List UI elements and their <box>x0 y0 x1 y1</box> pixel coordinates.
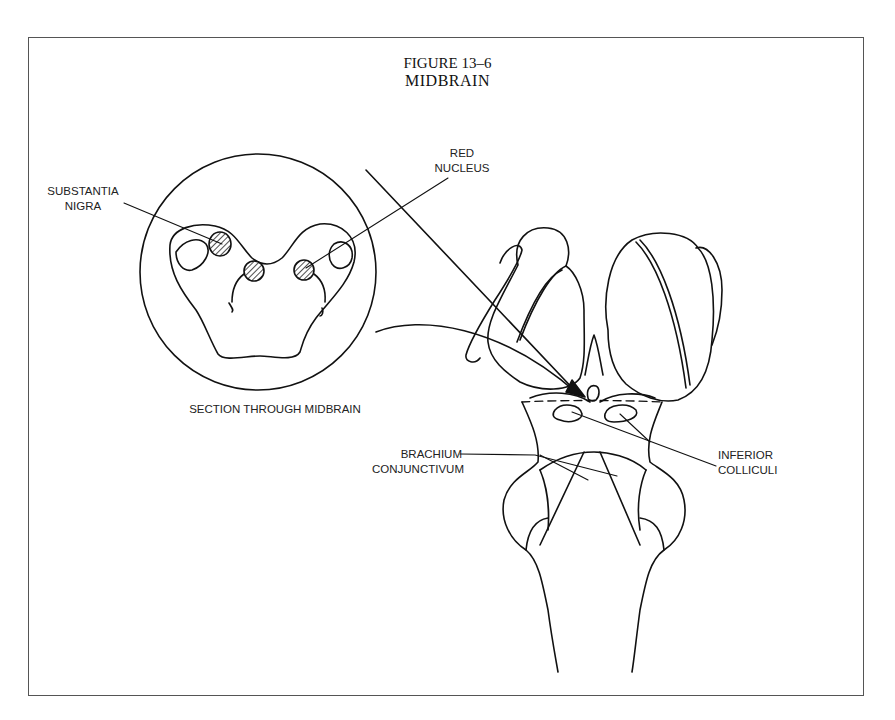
label-line: COLLICULI <box>718 463 788 478</box>
zoom-funnel-lines <box>366 170 585 397</box>
midbrain-illustration <box>0 0 895 720</box>
label-substantia-nigra: SUBSTANTIA NIGRA <box>40 184 126 214</box>
label-line: NUCLEUS <box>432 161 492 176</box>
label-brachium-conjunctivum: BRACHIUM CONJUNCTIVUM <box>372 447 462 477</box>
label-line: CONJUNCTIVUM <box>372 462 462 477</box>
leader-red-nucleus <box>306 178 448 268</box>
label-section-caption: SECTION THROUGH MIDBRAIN <box>185 402 365 417</box>
midbrain-cross-section <box>170 224 355 358</box>
label-inferior-colliculi: INFERIOR COLLICULI <box>718 448 788 478</box>
leader-inferior-colliculi-2 <box>620 414 650 442</box>
brainstem-external-view <box>466 228 722 672</box>
label-line: SUBSTANTIA <box>40 184 126 199</box>
label-line: BRACHIUM <box>372 447 462 462</box>
label-line: NIGRA <box>40 199 126 214</box>
leader-inferior-colliculi-1 <box>572 412 716 466</box>
figure-canvas: FIGURE 13–6 MIDBRAIN <box>0 0 895 720</box>
label-line: RED <box>432 146 492 161</box>
label-line: INFERIOR <box>718 448 788 463</box>
label-red-nucleus: RED NUCLEUS <box>432 146 492 176</box>
